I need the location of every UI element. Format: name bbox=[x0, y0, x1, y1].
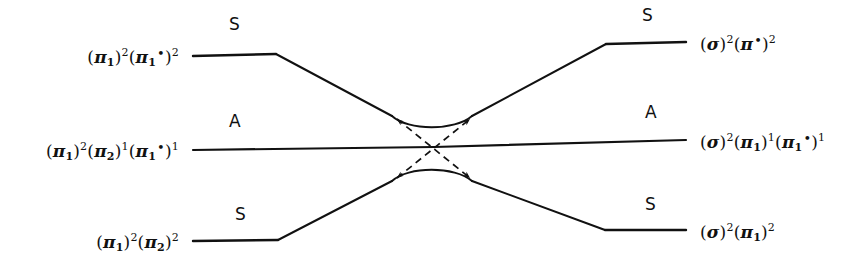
level-segment-left-top bbox=[193, 54, 276, 56]
symmetry-label-left-top: S bbox=[229, 16, 240, 33]
config-label-left-bottom: (π1)2(π2)2 bbox=[96, 232, 179, 253]
config-label-right-middle: (σ)2(π1)1(π1•)1 bbox=[700, 132, 825, 153]
descending-limb-lower-right bbox=[472, 181, 605, 230]
ascending-limb-upper-right bbox=[472, 44, 606, 116]
correlation-line-lower-s bbox=[193, 170, 686, 241]
symmetry-label-left-bottom: S bbox=[235, 206, 246, 223]
descending-limb-upper-left bbox=[276, 54, 392, 116]
symmetry-label-right-middle: A bbox=[645, 104, 657, 121]
correlation-line-middle-a bbox=[193, 140, 686, 150]
correlation-diagram: (π1)2(π1•)2 (π1)2(π2)1(π1•)1 (π1)2(π2)2 … bbox=[0, 0, 863, 265]
ascending-limb-lower-left bbox=[278, 181, 392, 240]
symmetry-label-right-top: S bbox=[642, 7, 653, 24]
avoided-crossing-arc-lower bbox=[392, 170, 472, 181]
level-segment-left-bottom bbox=[193, 240, 278, 241]
level-segment-right-top bbox=[606, 42, 686, 44]
config-label-left-top: (π1)2(π1•)2 bbox=[87, 47, 179, 68]
config-label-left-middle: (π1)2(π2)1(π1•)1 bbox=[46, 141, 179, 162]
correlation-line-upper-s bbox=[193, 42, 686, 127]
level-segment-right-middle bbox=[434, 140, 686, 147]
avoided-crossing-arc-upper bbox=[392, 116, 472, 127]
config-label-right-top: (σ)2(π•)2 bbox=[700, 34, 776, 53]
config-label-right-bottom: (σ)2(π1)2 bbox=[700, 222, 775, 243]
symmetry-label-right-bottom: S bbox=[645, 196, 656, 213]
level-segment-left-middle bbox=[193, 147, 434, 150]
symmetry-label-left-middle: A bbox=[229, 113, 241, 130]
